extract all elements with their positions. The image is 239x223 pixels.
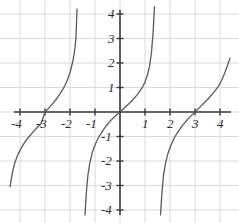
y-tick-label: 4 <box>108 7 115 20</box>
y-tick-label: -1 <box>101 130 112 143</box>
y-tick-label: -2 <box>101 154 112 167</box>
plot-canvas <box>0 0 239 223</box>
x-tick-label: 2 <box>167 117 174 130</box>
x-tick-label: -2 <box>61 117 72 130</box>
x-tick-label: 3 <box>192 117 199 130</box>
y-tick-label: -4 <box>101 203 112 216</box>
y-tick-label: 3 <box>108 32 115 45</box>
axis-lines <box>14 10 231 215</box>
y-tick-label: 1 <box>108 81 115 94</box>
x-tick-label: 4 <box>217 117 224 130</box>
x-tick-label: -4 <box>11 117 22 130</box>
x-tick-label: 1 <box>142 117 149 130</box>
x-tick-label: -3 <box>36 117 47 130</box>
y-tick-label: 2 <box>108 56 115 69</box>
tangent-graph-figure: -4-3-2-112344321-1-2-3-4 <box>0 0 239 223</box>
y-tick-label: -3 <box>101 179 112 192</box>
x-tick-label: -1 <box>86 117 97 130</box>
